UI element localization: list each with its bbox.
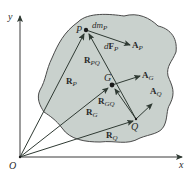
point-g: [110, 83, 115, 88]
origin-point: [19, 156, 21, 158]
y-axis-label: y: [7, 11, 13, 22]
point-g-label: G: [104, 72, 111, 83]
point-q-label: Q: [131, 121, 139, 132]
point-p-label: P: [75, 24, 82, 35]
x-axis-label: x: [178, 159, 184, 170]
point-p: [84, 28, 88, 32]
origin-label: O: [9, 160, 16, 171]
kinematics-diagram: y x O P G Q dmP dFP AP RPQ RP AG AQ RGQ …: [0, 0, 196, 173]
point-q: [135, 118, 137, 120]
